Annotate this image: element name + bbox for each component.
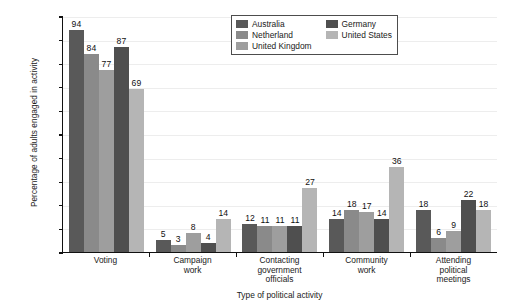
bar[interactable]: 14: [216, 219, 231, 252]
bar-value-label: 5: [161, 229, 166, 239]
legend-item[interactable]: Germany: [326, 19, 392, 29]
bar[interactable]: 22: [461, 200, 476, 252]
legend-label: United Kingdom: [252, 41, 312, 51]
bar[interactable]: 8: [186, 233, 201, 252]
bar-slot: 4: [201, 17, 216, 252]
bar-slot: 94: [69, 17, 84, 252]
bar-slot: 77: [99, 17, 114, 252]
bar[interactable]: 4: [201, 243, 216, 252]
bar-value-label: 9: [451, 220, 456, 230]
legend-swatch-icon: [236, 42, 248, 50]
bar[interactable]: 94: [69, 30, 84, 252]
bar-slot: 22: [461, 17, 476, 252]
bar[interactable]: 11: [257, 226, 272, 252]
legend-item[interactable]: United States: [326, 30, 392, 40]
bar-slot: 84: [84, 17, 99, 252]
legend-item[interactable]: United Kingdom: [236, 41, 312, 51]
bar-slot: 5: [156, 17, 171, 252]
bar-value-label: 14: [377, 208, 387, 218]
legend-item[interactable]: Australia: [236, 19, 312, 29]
bar-value-label: 14: [218, 208, 228, 218]
bar[interactable]: 36: [389, 167, 404, 252]
bar[interactable]: 6: [431, 238, 446, 252]
bar[interactable]: 14: [329, 219, 344, 252]
bar-slot: 14: [216, 17, 231, 252]
bar-slot: 87: [114, 17, 129, 252]
bar[interactable]: 17: [359, 212, 374, 252]
bar-value-label: 36: [392, 156, 402, 166]
bar-value-label: 11: [291, 215, 300, 225]
legend-swatch-icon: [236, 31, 248, 39]
bar[interactable]: 11: [272, 226, 287, 252]
bar-value-label: 27: [305, 177, 315, 187]
bar[interactable]: 18: [344, 210, 359, 252]
bar-slot: 3: [171, 17, 186, 252]
bar[interactable]: 77: [99, 70, 114, 252]
bar[interactable]: 69: [129, 89, 144, 252]
bar[interactable]: 18: [476, 210, 491, 252]
bar-value-label: 6: [436, 227, 441, 237]
bar-group: 538414: [150, 17, 237, 252]
bar-value-label: 77: [102, 59, 112, 69]
bar-value-label: 11: [261, 215, 270, 225]
bar-slot: 69: [129, 17, 144, 252]
legend: AustraliaNetherlandUnited Kingdom German…: [231, 15, 398, 55]
bar[interactable]: 12: [242, 224, 257, 252]
legend-label: Netherland: [252, 30, 293, 40]
x-axis-category-label: Attending political meetings: [410, 256, 497, 285]
bar-value-label: 18: [347, 199, 357, 209]
bar-slot: 6: [431, 17, 446, 252]
legend-label: Germany: [342, 19, 376, 29]
x-axis-category-label: Contacting government officials: [236, 256, 323, 285]
bar[interactable]: 11: [287, 226, 302, 252]
bar-slot: 18: [476, 17, 491, 252]
x-axis-category-label: Community work: [323, 256, 410, 285]
bar-value-label: 11: [276, 215, 285, 225]
bar[interactable]: 84: [84, 54, 99, 252]
bar-chart: Percentage of adults engaged in activity…: [0, 0, 513, 308]
bar-value-label: 22: [464, 189, 474, 199]
bar[interactable]: 3: [171, 245, 186, 252]
bar-slot: 9: [446, 17, 461, 252]
bar[interactable]: 9: [446, 231, 461, 252]
bar[interactable]: 5: [156, 240, 171, 252]
y-axis-tick-mark: [59, 252, 63, 253]
x-axis-title: Type of political activity: [62, 290, 497, 300]
bar-value-label: 18: [479, 199, 489, 209]
bar-value-label: 17: [362, 201, 372, 211]
legend-column-left: AustraliaNetherlandUnited Kingdom: [236, 19, 312, 51]
legend-swatch-icon: [236, 20, 248, 28]
legend-swatch-icon: [326, 20, 338, 28]
x-axis-category-label: Campaign work: [149, 256, 236, 285]
bar-group: 9484778769: [63, 17, 150, 252]
x-axis-category-label: Voting: [62, 256, 149, 285]
legend-label: Australia: [252, 19, 285, 29]
bar[interactable]: 27: [302, 188, 317, 252]
bar-value-label: 4: [206, 232, 211, 242]
legend-column-right: GermanyUnited States: [326, 19, 392, 51]
bar[interactable]: 14: [374, 219, 389, 252]
bar-group: 18692218: [410, 17, 497, 252]
bar-value-label: 3: [176, 234, 181, 244]
bar[interactable]: 87: [114, 47, 129, 252]
bar-value-label: 94: [72, 19, 82, 29]
legend-item[interactable]: Netherland: [236, 30, 312, 40]
bar-value-label: 18: [419, 199, 429, 209]
legend-label: United States: [342, 30, 392, 40]
legend-swatch-icon: [326, 31, 338, 39]
bar-value-label: 69: [132, 78, 142, 88]
y-axis-title: Percentage of adults engaged in activity: [30, 13, 39, 253]
x-axis-category-labels: VotingCampaign workContacting government…: [62, 256, 497, 285]
bar-value-label: 8: [191, 222, 196, 232]
bar[interactable]: 18: [416, 210, 431, 252]
bar-value-label: 84: [87, 43, 97, 53]
bar-value-label: 12: [245, 213, 255, 223]
bar-value-label: 14: [332, 208, 342, 218]
bar-slot: 8: [186, 17, 201, 252]
bar-value-label: 87: [117, 36, 127, 46]
bar-slot: 18: [416, 17, 431, 252]
